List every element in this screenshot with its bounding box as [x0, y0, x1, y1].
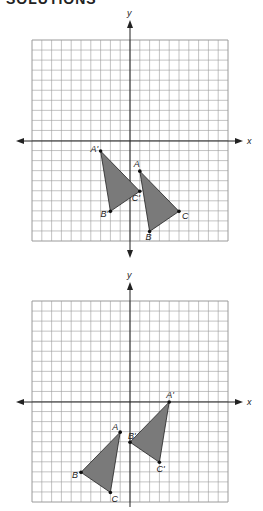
vertex-label-cp: C' [156, 464, 164, 474]
vertex-point [118, 430, 122, 434]
vertex-label-b: B [146, 232, 152, 242]
vertex-point [138, 169, 142, 173]
y-axis-label: y [126, 270, 132, 280]
vertex-point [167, 400, 171, 404]
graph-2: xyABCA'B'C' [16, 270, 252, 507]
vertex-label-ap: A' [165, 390, 174, 400]
vertex-label-a: A [111, 422, 118, 432]
vertex-label-cp: C' [132, 193, 140, 203]
vertex-label-ap: A' [90, 144, 99, 154]
vertex-point [109, 210, 113, 214]
vertex-label-c: C [111, 494, 118, 504]
vertex-label-b: B [72, 470, 78, 480]
vertex-label-c: C [182, 211, 189, 221]
vertex-label-bp: B' [128, 431, 136, 441]
arrow-left-icon [16, 399, 24, 405]
arrow-right-icon [235, 138, 243, 144]
graph-1: xyABCA'B'C' [16, 8, 252, 258]
arrow-left-icon [16, 138, 24, 144]
x-axis-label: x [246, 397, 252, 407]
coordinate-graphs: xyABCA'B'C' xyABCA'B'C' [0, 0, 263, 511]
y-axis-label: y [126, 8, 132, 18]
arrow-down-icon [127, 250, 133, 258]
arrow-right-icon [235, 399, 243, 405]
vertex-point [99, 149, 103, 153]
vertex-point [177, 210, 181, 214]
vertex-point [79, 471, 83, 475]
vertex-label-bp: B' [100, 209, 108, 219]
x-axis-label: x [246, 136, 252, 146]
arrow-up-icon [127, 282, 133, 290]
vertex-label-a: A [133, 159, 140, 169]
arrow-up-icon [127, 20, 133, 28]
